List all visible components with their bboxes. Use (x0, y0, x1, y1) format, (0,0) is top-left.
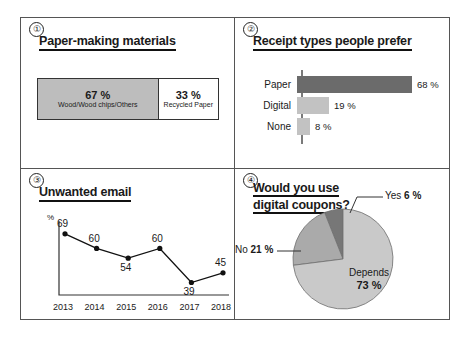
line-x-tick-label: 2014 (85, 302, 105, 312)
pie-label-depends-value: 73 % (349, 279, 389, 293)
bar-category-label: Digital (245, 100, 297, 111)
line-point-value: 45 (215, 257, 226, 268)
pie-label-yes: Yes 6 % (385, 190, 421, 201)
bar-row: Digital19 % (245, 97, 356, 114)
line-x-tick-label: 2013 (53, 302, 73, 312)
bar-rect (297, 76, 412, 93)
panel-digital-coupons: ④ Would you use digital coupons? Yes 6 %… (235, 169, 449, 320)
bar-row: Paper68 % (245, 76, 439, 93)
bar-value-label: 68 % (412, 79, 439, 90)
pie-label-depends-text: Depends (349, 267, 389, 280)
pie-chart: Yes 6 %No 21 %Depends73 % (235, 169, 449, 320)
horizontal-bar-chart: Paper68 %Digital19 %None8 % (245, 70, 449, 145)
panel-unwanted-email: ③ Unwanted email % 696054603945201320142… (21, 169, 235, 320)
bar-category-label: None (245, 121, 297, 132)
panel-receipt-types: ② Receipt types people prefer Paper68 %D… (235, 18, 449, 169)
bar-rect (297, 118, 310, 135)
stacked-segment-wood: 67 % Wood/Wood chips/Others (38, 79, 159, 119)
segment-recycled-label: Recycled Paper (164, 101, 213, 109)
line-point-value: 39 (183, 286, 194, 297)
stacked-bar-chart: 67 % Wood/Wood chips/Others 33 % Recycle… (37, 78, 219, 120)
segment-wood-label: Wood/Wood chips/Others (58, 101, 138, 109)
bar-category-label: Paper (245, 79, 297, 90)
line-x-tick-label: 2017 (179, 302, 199, 312)
panel-2-title: Receipt types people prefer (253, 34, 412, 51)
line-x-tick-label: 2018 (211, 302, 231, 312)
panel-1-title: Paper-making materials (39, 34, 176, 51)
line-point-value: 69 (57, 218, 68, 229)
pie-label-depends: Depends73 % (349, 267, 389, 293)
line-point-value: 60 (152, 233, 163, 244)
segment-wood-value: 67 % (85, 89, 110, 102)
bar-rect (297, 97, 329, 114)
bar-value-label: 19 % (329, 100, 356, 111)
line-point-value: 54 (120, 262, 131, 273)
line-point-value: 60 (89, 233, 100, 244)
bar-row: None8 % (245, 118, 331, 135)
panel-paper-making-materials: ① Paper-making materials 67 % Wood/Wood … (21, 18, 235, 169)
bar-value-label: 8 % (310, 121, 331, 132)
line-x-tick-label: 2015 (116, 302, 136, 312)
segment-recycled-value: 33 % (176, 89, 201, 102)
worksheet-frame: ① Paper-making materials 67 % Wood/Wood … (20, 17, 450, 320)
line-chart: % 696054603945201320142015201620172018 (33, 207, 235, 312)
stacked-segment-recycled: 33 % Recycled Paper (159, 79, 218, 119)
pie-label-no: No 21 % (235, 244, 273, 255)
line-x-tick-label: 2016 (148, 302, 168, 312)
panel-3-title: Unwanted email (39, 185, 131, 202)
